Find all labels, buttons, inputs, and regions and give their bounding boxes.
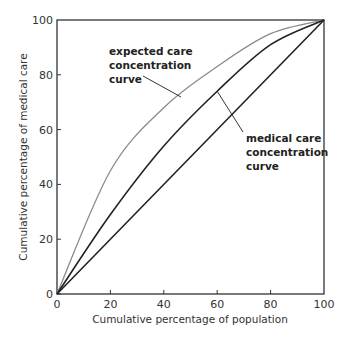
medical-care-annotation: medical care concentration curve <box>217 91 328 172</box>
svg-text:expected care: expected care <box>109 45 193 57</box>
x-tick-label: 20 <box>103 298 117 311</box>
y-axis-title: Cumulative percentage of medical care <box>17 53 29 260</box>
svg-text:curve: curve <box>246 160 279 172</box>
expected-care-leader-line <box>143 76 181 97</box>
x-tick-label: 0 <box>54 298 61 311</box>
svg-text:concentration: concentration <box>246 146 328 158</box>
y-tick-label: 40 <box>39 178 53 191</box>
x-axis: 0 20 40 60 80 100 <box>54 290 335 311</box>
y-tick-label: 80 <box>39 69 53 82</box>
y-tick-label: 60 <box>39 124 53 137</box>
expected-care-annotation: expected care concentration curve <box>109 45 193 97</box>
x-tick-label: 60 <box>210 298 224 311</box>
x-tick-label: 80 <box>264 298 278 311</box>
y-tick-label: 100 <box>32 14 53 27</box>
x-axis-title: Cumulative percentage of population <box>92 313 288 325</box>
y-tick-label: 20 <box>39 233 53 246</box>
concentration-curve-chart: 0 20 40 60 80 100 0 20 40 60 80 100 Cumu… <box>0 0 349 339</box>
x-tick-label: 100 <box>314 298 335 311</box>
svg-text:curve: curve <box>109 73 142 85</box>
svg-text:medical care: medical care <box>246 132 321 144</box>
x-tick-label: 40 <box>157 298 171 311</box>
svg-text:concentration: concentration <box>109 59 191 71</box>
y-tick-label: 0 <box>46 288 53 301</box>
